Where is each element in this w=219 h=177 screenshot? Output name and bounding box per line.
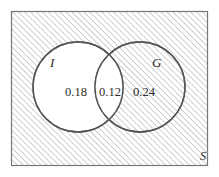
set-label-g: G: [152, 56, 161, 69]
value-g-only: 0.24: [133, 86, 155, 99]
value-intersection: 0.12: [99, 86, 121, 99]
venn-diagram-figure: I G S 0.18 0.12 0.24: [0, 0, 219, 177]
set-label-i: I: [50, 56, 54, 69]
value-i-only: 0.18: [65, 86, 87, 99]
universal-set-label: S: [200, 150, 206, 162]
